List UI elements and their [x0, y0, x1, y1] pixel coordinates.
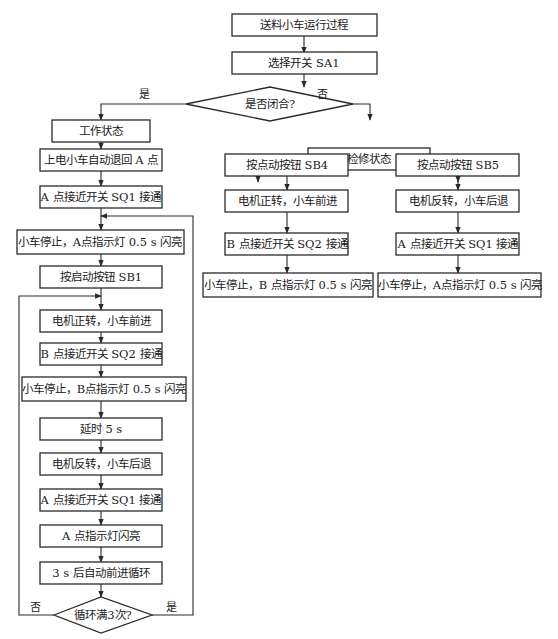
node-maintenance-state-label: 检修状态 [347, 152, 392, 166]
node-select-switch-label: 选择开关 SA1 [268, 56, 339, 70]
edge-label-loop-no: 否 [30, 601, 41, 614]
node-w6-label: B 点接近开关 SQ2 接通 [40, 347, 162, 361]
flowchart: 送料小车运行过程 选择开关 SA1 是否闭合? 是 否 工作状态 上电小车自动退… [0, 0, 558, 639]
edge-decision1-no [353, 104, 370, 120]
edge-label-no: 否 [317, 88, 328, 101]
node-n1-label: 按点动按钮 SB5 [417, 158, 499, 172]
node-n3-label: A 点接近开关 SQ1 接通 [397, 237, 520, 251]
node-w7-label: 小车停止，B点指示灯 0.5 s 闪亮 [22, 382, 187, 396]
decision-loop-count-label: 循环满3次? [74, 608, 131, 622]
edge-label-loop-yes: 是 [166, 601, 177, 614]
node-w1-label: 上电小车自动退回 A 点 [44, 153, 159, 167]
node-w10-label: A 点接近开关 SQ1 接通 [40, 493, 163, 507]
node-start-label: 送料小车运行过程 [260, 18, 349, 32]
node-w2-label: A 点接近开关 SQ1 接通 [40, 190, 163, 204]
node-w8-label: 延时 5 s [80, 422, 123, 436]
node-n2-label: 电机反转，小车后退 [409, 194, 509, 208]
node-w5-label: 电机正转，小车前进 [52, 314, 152, 328]
node-w9-label: 电机反转，小车后退 [52, 457, 152, 471]
node-w11-label: A 点指示灯闪亮 [61, 529, 140, 543]
node-m2-label: 电机正转，小车前进 [238, 194, 338, 208]
node-w4-label: 按启动按钮 SB1 [60, 270, 142, 284]
node-m4-label: 小车停止，B 点指示灯 0.5 s 闪亮 [204, 278, 372, 292]
node-w3-label: 小车停止，A点指示灯 0.5 s 闪亮 [18, 235, 182, 249]
node-n4-label: 小车停止，A点指示灯 0.5 s 闪亮 [378, 278, 542, 292]
node-work-state-label: 工作状态 [79, 124, 124, 138]
decision-is-closed-label: 是否闭合? [245, 97, 295, 111]
edge-label-yes: 是 [139, 88, 150, 101]
node-m3-label: B 点接近开关 SQ2 接通 [226, 237, 348, 251]
node-m1-label: 按点动按钮 SB4 [246, 158, 328, 172]
node-w12-label: 3 s 后自动前进循环 [52, 566, 150, 580]
edge-decision1-yes [101, 104, 186, 120]
